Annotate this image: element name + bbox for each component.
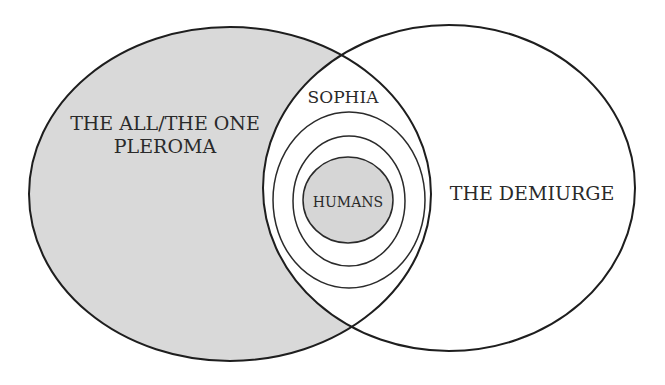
pleroma-label-line2: PLEROMA bbox=[114, 135, 217, 157]
sophia-label: SOPHIA bbox=[308, 87, 380, 107]
gnostic-venn-diagram: THE ALL/THE ONE PLEROMA SOPHIA HUMANS TH… bbox=[0, 0, 665, 385]
pleroma-label-line1: THE ALL/THE ONE bbox=[70, 112, 260, 134]
humans-label: HUMANS bbox=[313, 194, 383, 210]
demiurge-label: THE DEMIURGE bbox=[450, 182, 615, 204]
